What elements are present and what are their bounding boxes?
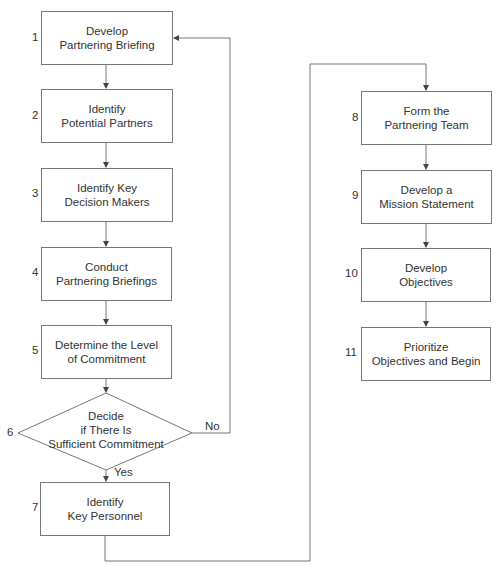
step-5-number: 5 (32, 344, 38, 356)
yes-branch-label: Yes (114, 466, 133, 478)
step-4-number: 4 (32, 266, 38, 278)
step-10-number: 10 (345, 267, 358, 279)
step-2-number: 2 (32, 109, 38, 121)
step-11-box: Prioritize Objectives and Begin (361, 327, 491, 381)
step-11-number: 11 (345, 346, 357, 358)
step-6-decision: Decide if There Is Sufficient Commitment (46, 409, 166, 451)
step-3-number: 3 (32, 187, 38, 199)
step-1-number: 1 (32, 31, 38, 43)
step-10-box: Develop Objectives (361, 248, 491, 302)
step-7-box: Identify Key Personnel (40, 482, 170, 536)
step-7-number: 7 (32, 501, 38, 513)
step-3-box: Identify Key Decision Makers (41, 168, 173, 222)
step-9-number: 9 (352, 189, 358, 201)
step-2-box: Identify Potential Partners (41, 89, 173, 143)
step-1-box: Develop Partnering Briefing (41, 11, 173, 65)
step-8-box: Form the Partnering Team (361, 91, 492, 145)
step-8-number: 8 (352, 111, 358, 123)
step-5-box: Determine the Level of Commitment (41, 325, 172, 379)
no-branch-label: No (205, 420, 220, 432)
step-4-box: Conduct Partnering Briefings (41, 247, 172, 301)
step-9-box: Develop a Mission Statement (361, 170, 492, 224)
step-6-number: 6 (7, 426, 13, 438)
